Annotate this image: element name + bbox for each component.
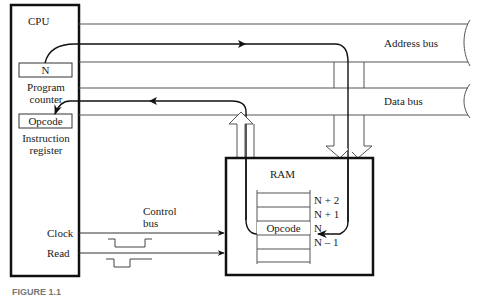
- address-path-arrow: [45, 44, 348, 234]
- ram-title: RAM: [270, 168, 295, 180]
- program-counter-label-1: Program: [14, 81, 78, 93]
- read-pulse: [106, 259, 152, 267]
- ram-cell-opcode: Opcode: [257, 222, 310, 234]
- clock-label: Clock: [47, 227, 73, 239]
- ram-address-n-minus-1: N – 1: [314, 236, 338, 248]
- control-bus-label-1: Control: [143, 205, 177, 217]
- ram-address-n: N: [314, 222, 322, 234]
- address-bus-label: Address bus: [384, 37, 438, 49]
- figure-caption: FIGURE 1.1: [12, 286, 61, 298]
- ram-box: [226, 158, 373, 275]
- instruction-register-value: Opcode: [19, 115, 72, 127]
- ram-address-n-plus-2: N + 2: [314, 194, 339, 206]
- clock-pulse: [108, 239, 152, 247]
- ram-to-data-bus-arrow: [229, 112, 253, 158]
- address-bus-to-ram-arrow: [326, 62, 372, 158]
- ram-address-n-plus-1: N + 1: [314, 208, 339, 220]
- instruction-register-label-2: register: [13, 144, 79, 156]
- program-counter-value: N: [19, 64, 72, 76]
- data-bus-label: Data bus: [384, 95, 423, 107]
- instruction-register-label-1: Instruction: [13, 132, 79, 144]
- program-counter-label-2: counter: [14, 93, 78, 105]
- cpu-title: CPU: [28, 15, 49, 27]
- read-label: Read: [47, 247, 70, 259]
- control-bus-label-2: bus: [143, 217, 158, 229]
